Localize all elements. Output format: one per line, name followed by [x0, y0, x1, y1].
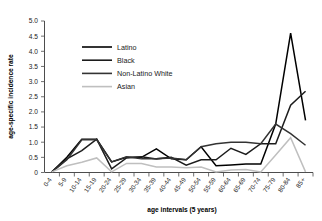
figure-canvas: 5.04.54.03.53.02.52.01.51.00.50 age-spec…	[0, 0, 322, 221]
legend-label-latino: Latino	[117, 43, 137, 52]
legend-label-non-latino-white: Non-Latino White	[117, 69, 173, 78]
y-tick-label: 1.0	[29, 139, 38, 146]
series-line-latino	[52, 33, 306, 172]
x-axis-tick-labels: 0-45-910-1415-1920-2425-2930-3435-3940-4…	[42, 176, 307, 194]
line-chart: 5.04.54.03.53.02.52.01.51.00.50 age-spec…	[0, 0, 322, 221]
y-axis: 5.04.54.03.53.02.52.01.51.00.50 age-spec…	[7, 17, 45, 176]
x-tick-label: 80-84	[276, 176, 291, 194]
x-tick-label: 65-69	[232, 176, 247, 194]
x-tick-label: 75-79	[261, 176, 276, 194]
x-tick-label: 40-44	[157, 176, 172, 194]
y-axis-ticks	[41, 21, 45, 173]
legend-label-asian: Asian	[117, 82, 135, 91]
y-tick-label: 3.0	[29, 78, 38, 85]
y-tick-label: 5.0	[29, 17, 38, 24]
x-tick-label: 85+	[294, 176, 306, 189]
x-tick-label: 0-4	[42, 176, 53, 188]
legend: LatinoBlackNon-Latino WhiteAsian	[82, 43, 173, 92]
x-tick-label: 5-9	[57, 176, 68, 188]
y-tick-label: 3.5	[29, 63, 38, 70]
data-series-group	[52, 33, 306, 172]
x-tick-label: 25-29	[112, 176, 127, 194]
y-tick-label: 4.5	[29, 33, 38, 40]
x-tick-label: 70-74	[246, 176, 261, 194]
x-axis-ticks	[59, 173, 313, 177]
x-tick-label: 35-39	[142, 176, 157, 194]
x-tick-label: 50-54	[187, 176, 202, 194]
series-line-asian	[52, 138, 306, 172]
y-tick-label: 2.5	[29, 93, 38, 100]
x-axis: 0-45-910-1415-1920-2425-2930-3435-3940-4…	[42, 173, 313, 215]
y-tick-label: 0.5	[29, 154, 38, 161]
y-tick-label: 2.0	[29, 108, 38, 115]
legend-label-black: Black	[117, 56, 135, 65]
x-tick-label: 10-14	[67, 176, 82, 194]
y-axis-title: age-specific incidence rate	[7, 54, 15, 139]
x-tick-label: 60-64	[217, 176, 232, 194]
x-tick-label: 20-24	[97, 176, 112, 194]
y-axis-tick-labels: 5.04.54.03.53.02.52.01.51.00.50	[29, 17, 39, 176]
x-tick-label: 30-34	[127, 176, 142, 194]
x-tick-label: 15-19	[82, 176, 97, 194]
y-tick-label: 1.5	[29, 123, 38, 130]
y-tick-label: 4.0	[29, 48, 38, 55]
x-tick-label: 55-59	[202, 176, 217, 194]
y-tick-label: 0	[34, 169, 38, 176]
x-tick-label: 45-49	[172, 176, 187, 194]
x-axis-title: age intervals (5 years)	[147, 206, 216, 214]
